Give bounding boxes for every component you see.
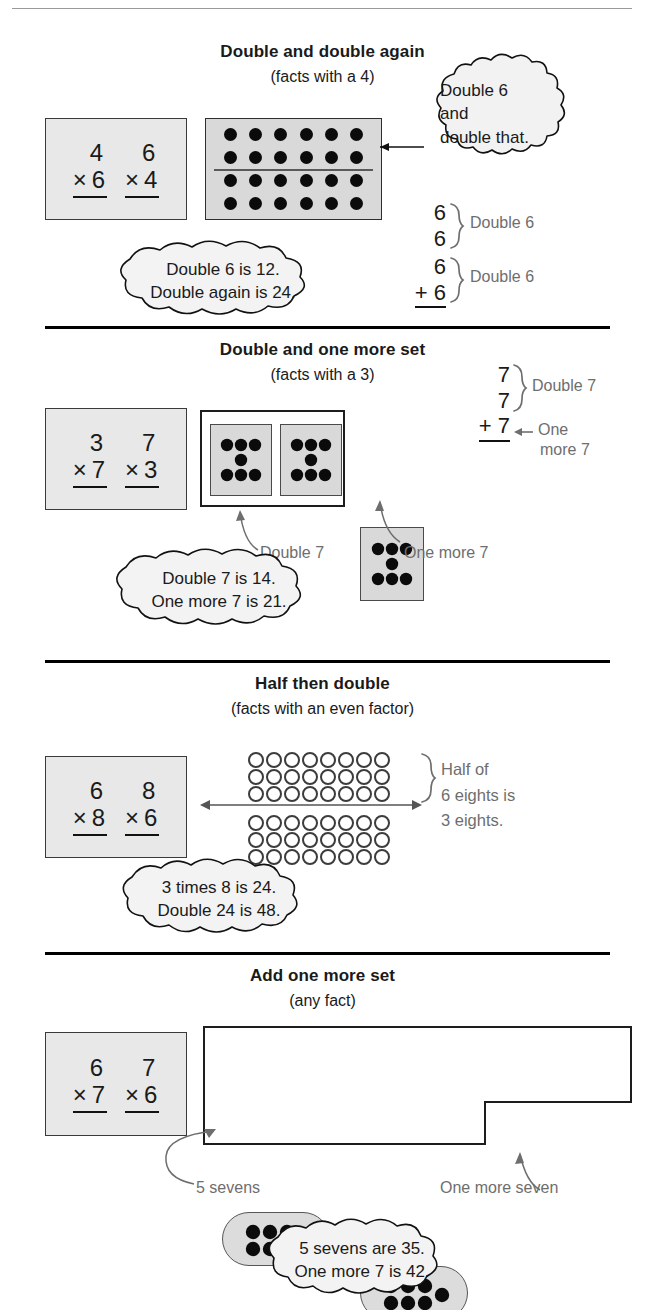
fact-factor: 3 (144, 456, 157, 483)
section-add-one-more-set: Add one more set (any fact) (0, 966, 645, 1010)
multiply-operator: × (73, 166, 87, 193)
multiply-operator: × (73, 1081, 87, 1108)
brace-icon (420, 752, 436, 804)
dot-group-7 (210, 424, 272, 496)
fact-bottom: ×7 (73, 1082, 107, 1113)
section-title: Half then double (0, 674, 645, 694)
addend: 6 (402, 254, 446, 280)
brace-label: Double 6 (470, 267, 534, 287)
dot-row (218, 151, 369, 164)
addend: 7 (462, 362, 510, 388)
annotation-line: 3 eights. (441, 808, 515, 834)
callout-line: and (440, 102, 468, 125)
multiply-operator: × (73, 804, 87, 831)
brace-group-double-6-b: 6 + 6 Double 6 (402, 254, 642, 312)
addend: 6 (418, 226, 446, 252)
multiply-operator: × (125, 804, 139, 831)
brace-group-double-6-a: 6 6 Double 6 (418, 200, 638, 250)
label-5-sevens: 5 sevens (196, 1178, 260, 1198)
circle-row (248, 769, 418, 785)
multiply-operator: × (125, 1081, 139, 1108)
section-divider (45, 952, 610, 955)
section-divider (45, 660, 610, 663)
multiply-operator: × (125, 456, 139, 483)
pointer-arrow-one-more-7 (370, 498, 406, 544)
dot-row (218, 174, 369, 187)
label-one-more-7: One more 7 (404, 543, 488, 563)
section-subtitle: (facts with an even factor) (0, 700, 645, 718)
fact-expression: 7 ×3 (125, 430, 159, 488)
cloud-text: 5 sevens are 35. One more 7 is 42. (243, 1222, 481, 1298)
fact-bottom: ×3 (125, 457, 159, 488)
fact-factor: 4 (144, 166, 157, 193)
cloud-line: Double 6 is 12. (166, 258, 279, 281)
fact-box: 3 ×7 7 ×3 (45, 408, 187, 510)
fact-bottom: ×6 (125, 1082, 159, 1113)
fact-top: 6 (125, 140, 159, 167)
thought-cloud-double-7: Double 7 is 14. One more 7 is 21. (88, 552, 350, 628)
fact-top: 3 (73, 430, 107, 457)
fact-expression: 7 ×6 (125, 1055, 159, 1113)
cloud-line: Double 7 is 14. (162, 567, 275, 590)
fact-factor: 8 (92, 804, 105, 831)
fact-expression: 3 ×7 (73, 430, 107, 488)
annotation-line: 6 eights is (441, 783, 515, 809)
fact-top: 7 (125, 430, 159, 457)
fact-expression: 6 ×8 (73, 778, 107, 836)
fact-factor: 7 (92, 1081, 105, 1108)
thought-cloud-half-double: 3 times 8 is 24. Double 24 is 48. (96, 862, 342, 936)
cloud-line: 3 times 8 is 24. (162, 876, 276, 899)
fact-top: 6 (73, 1055, 107, 1082)
circle-row (248, 752, 418, 768)
fact-expression: 6 ×7 (73, 1055, 107, 1113)
thought-cloud-add-one-more: 5 sevens are 35. One more 7 is 42. (243, 1222, 481, 1298)
fact-box: 4 ×6 6 ×4 (45, 118, 187, 220)
brace-icon (449, 256, 464, 304)
arrow-label-line: more 7 (540, 440, 590, 460)
cloud-line: Double again is 24. (150, 281, 296, 304)
addend: + 7 (479, 413, 510, 442)
array-split-line (214, 169, 373, 171)
dot-array-24 (205, 118, 382, 220)
pointer-arrow-double-7 (222, 508, 262, 552)
cloud-line: Double 24 is 48. (158, 899, 281, 922)
fact-bottom: ×6 (125, 805, 159, 836)
section-divider (45, 326, 610, 329)
fact-expression: 6 ×4 (125, 140, 159, 198)
section-subtitle: (any fact) (0, 992, 645, 1010)
fact-expression: 4 ×6 (73, 140, 107, 198)
addend-stack: 6 + 6 (402, 254, 446, 308)
callout-double-6: Double 6 and double that. (414, 58, 596, 170)
half-split-arrow-icon (200, 799, 422, 811)
fact-top: 7 (125, 1055, 159, 1082)
addend: + 6 (415, 280, 446, 309)
multiply-operator: × (125, 166, 139, 193)
five-sevens-frame (203, 1026, 633, 1146)
arrow-label: One more 7 (538, 420, 590, 460)
fact-top: 6 (73, 778, 107, 805)
addend: 7 (462, 388, 510, 414)
section-title: Add one more set (0, 966, 645, 986)
arrow-label-line: One (538, 420, 590, 440)
fact-bottom: ×6 (73, 167, 107, 198)
callout-line: double that. (440, 126, 529, 149)
cloud-line: One more 7 is 21. (151, 590, 286, 613)
callout-line: Double 6 (440, 79, 508, 102)
section-half-then-double: Half then double (facts with an even fac… (0, 674, 645, 718)
fact-top: 8 (125, 778, 159, 805)
addition-stack-double-7: 7 7 + 7 Double 7 One more 7 (462, 362, 642, 472)
callout-text: Double 6 and double that. (414, 58, 596, 170)
multiply-operator: × (73, 456, 87, 483)
cloud-text: 3 times 8 is 24. Double 24 is 48. (96, 862, 342, 936)
annotation-line: Half of (441, 757, 515, 783)
addend-stack: 6 6 (418, 200, 446, 251)
dot-row (218, 197, 369, 210)
circle-row (248, 815, 418, 831)
fact-bottom: ×8 (73, 805, 107, 836)
cloud-text: Double 7 is 14. One more 7 is 21. (88, 552, 350, 628)
fact-factor: 6 (144, 1081, 157, 1108)
left-arrow-icon (514, 427, 534, 437)
brace-icon (449, 202, 464, 250)
label-one-more-seven: One more seven (440, 1178, 558, 1198)
page-top-rule (12, 8, 632, 9)
